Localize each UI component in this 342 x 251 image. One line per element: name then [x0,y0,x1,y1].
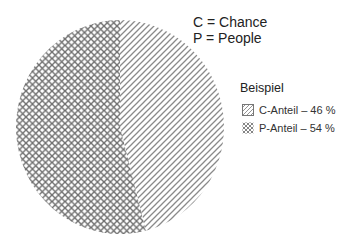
diagonal-hatch-swatch-icon [242,104,254,116]
legend-item-c-anteil: C-Anteil – 46 % [242,103,335,116]
key-chance: C = Chance [193,14,267,30]
legend-item-p-anteil: P-Anteil – 54 % [242,121,335,134]
legend-label-p: P-Anteil – 54 % [259,122,335,134]
cross-hatch-swatch-icon [242,122,254,134]
key-people: P = People [193,30,262,46]
legend-label-c: C-Anteil – 46 % [259,104,335,116]
legend-title: Beispiel [240,81,284,95]
